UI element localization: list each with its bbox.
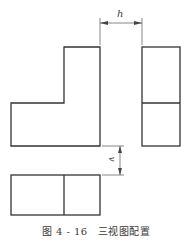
top-view: [11, 175, 100, 215]
figure-caption: 图 4 - 16三视图配置: [0, 223, 192, 238]
three-view-drawing: [0, 0, 192, 247]
side-view: [142, 47, 180, 146]
front-view: [11, 47, 100, 146]
dimension-h: [100, 18, 142, 45]
figure-title: 三视图配置: [98, 226, 151, 237]
figure-number: 图 4 - 16: [42, 226, 88, 237]
dimension-v-label: v: [107, 156, 117, 161]
dimension-h-label: h: [117, 8, 123, 19]
